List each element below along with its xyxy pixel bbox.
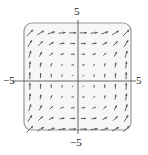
- vector-field-plot: [0, 0, 148, 155]
- y-top-tick-label: 5: [74, 6, 80, 17]
- plot-frame: [24, 23, 131, 130]
- x-right-tick-label: 5: [136, 75, 142, 86]
- y-bottom-tick-label: −5: [70, 137, 82, 148]
- x-left-tick-label: −5: [3, 75, 15, 86]
